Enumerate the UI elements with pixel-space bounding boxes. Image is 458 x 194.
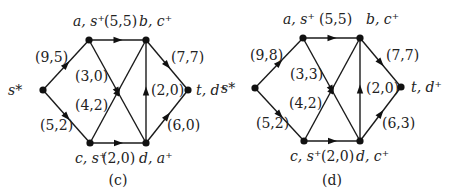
arrowhead-icon [143, 87, 149, 96]
node-s [251, 84, 258, 91]
panel-c-graph: (9,5)(5,2)(5,5)(3,0)(4,2)(2,0)(2,0)(7,7)… [8, 13, 227, 188]
edge-label: (6,3) [382, 115, 415, 131]
node-c [86, 139, 93, 146]
edge-label: (3,0) [75, 68, 108, 84]
arrowhead-icon [328, 35, 337, 41]
node-d [142, 139, 149, 146]
node-label: s* [221, 80, 235, 96]
panel-caption: (d) [322, 172, 342, 188]
node-c [300, 137, 307, 144]
edge-label: (6,0) [167, 117, 200, 133]
node-t [397, 83, 404, 90]
node-label: b, c⁺ [366, 11, 399, 27]
node-label: c, s⁺ [75, 150, 106, 166]
edge-label: (4,2) [289, 95, 322, 111]
node-d [356, 137, 363, 144]
edge-label: (5,5) [104, 13, 137, 29]
node-label: b, c⁺ [139, 13, 172, 29]
edge-label: (5,2) [40, 117, 73, 133]
node-t [184, 86, 191, 93]
node-label: a, s⁺ [73, 13, 105, 29]
edge-label: (7,7) [386, 47, 419, 63]
node-label: c, s⁺ [290, 148, 321, 164]
edge-label: (3,3) [290, 66, 323, 82]
edge-label: (4,2) [75, 97, 108, 113]
edge-label: (5,5) [319, 11, 352, 27]
node-a [85, 36, 92, 43]
node-a [299, 34, 306, 41]
node-b [142, 36, 149, 43]
node-label: d, c⁺ [356, 148, 389, 164]
arrowhead-icon [357, 85, 363, 94]
flow-network-figure: (9,5)(5,2)(5,5)(3,0)(4,2)(2,0)(2,0)(7,7)… [0, 0, 458, 194]
edge-label: (2,0) [366, 80, 399, 96]
edge-label: (9,8) [250, 47, 283, 63]
panel-d-graph: (9,8)(5,2)(5,5)(3,3)(4,2)(2,0)(2,0)(7,7)… [221, 11, 442, 188]
node-b [356, 34, 363, 41]
edge-label: (2,0) [151, 82, 184, 98]
edge-label: (9,5) [35, 49, 68, 65]
edge-label: (2,0) [102, 150, 135, 166]
arrowhead-icon [114, 37, 123, 43]
edge-label: (7,7) [171, 49, 204, 65]
arrowhead-icon [328, 138, 337, 144]
node-label: s* [8, 82, 22, 98]
edge-label: (5,2) [256, 115, 289, 131]
node-label: t, d⁺ [411, 79, 442, 95]
arrowhead-icon [114, 140, 123, 146]
edge-label: (2,0) [321, 148, 354, 164]
panel-caption: (c) [109, 172, 128, 188]
node-s [39, 86, 46, 93]
node-label: a, s⁺ [283, 11, 315, 27]
node-label: d, a⁺ [139, 150, 173, 166]
